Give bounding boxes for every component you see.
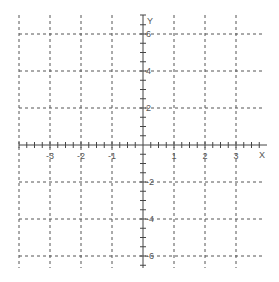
- x-tick-label: 2: [202, 151, 207, 161]
- y-tick-label: -4: [146, 214, 154, 224]
- x-tick-label: -1: [108, 151, 116, 161]
- y-tick-label: 2: [146, 103, 151, 113]
- x-tick-label: 3: [233, 151, 238, 161]
- x-tick-label: -3: [46, 151, 54, 161]
- y-axis-label: Y: [147, 16, 153, 26]
- y-tick-label: 6: [146, 29, 151, 39]
- x-tick-label: 1: [171, 151, 176, 161]
- x-axis-label: X: [259, 150, 265, 160]
- y-tick-label: 4: [146, 66, 151, 76]
- x-tick-label: -2: [77, 151, 85, 161]
- coordinate-plane: -3-2-1123642-2-4-6 X Y: [0, 0, 279, 282]
- y-tick-label: -2: [146, 177, 154, 187]
- y-tick-label: -6: [146, 251, 154, 261]
